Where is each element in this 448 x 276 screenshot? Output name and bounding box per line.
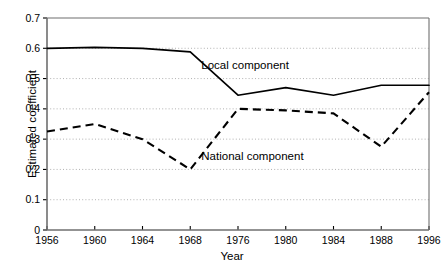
line-chart: 00.10.20.30.40.50.60.7 19561960196419681… <box>0 0 448 276</box>
x-tick-label: 1996 <box>417 234 441 246</box>
x-axis-label: Year <box>204 250 243 262</box>
y-tick-label: 0.7 <box>25 12 40 24</box>
x-tick-label: 1984 <box>322 234 346 246</box>
x-tick-label: 1968 <box>179 234 203 246</box>
x-tick-label: 1956 <box>35 234 59 246</box>
x-tick-label: 1976 <box>226 234 250 246</box>
x-tick-label: 1964 <box>131 234 155 246</box>
annotation-local-component: Local component <box>201 59 289 71</box>
x-tick-label: 1960 <box>83 234 107 246</box>
chart-container: 00.10.20.30.40.50.60.7 19561960196419681… <box>0 0 448 276</box>
x-axis-label-wrap: Year <box>0 250 448 262</box>
x-tick-label: 1980 <box>274 234 298 246</box>
y-axis-label: Estimated coefficient <box>26 24 38 224</box>
x-tick-label: 1988 <box>370 234 394 246</box>
annotation-national-component: National component <box>201 150 304 162</box>
